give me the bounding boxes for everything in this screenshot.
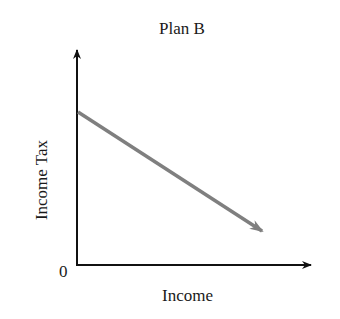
x-axis-label: Income — [150, 286, 225, 306]
series-line-plan-b — [78, 112, 262, 231]
origin-label: 0 — [59, 262, 68, 282]
y-axis-label: Income Tax — [32, 140, 52, 220]
